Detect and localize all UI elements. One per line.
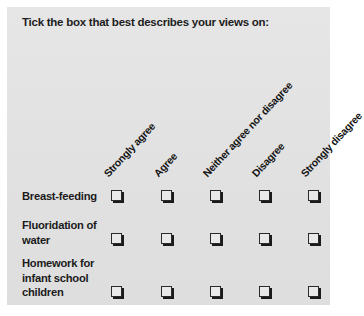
column-header-agree: Agree [151,150,179,179]
checkbox-homework-strongly-agree[interactable] [111,286,122,297]
checkbox-homework-strongly-disagree[interactable] [308,286,319,297]
question-panel: Tick the box that best describes your vi… [7,7,330,305]
column-header-anchor-4: Disagree [258,178,259,179]
checkbox-homework-agree[interactable] [161,286,172,297]
row-label-fluoridation-of-water: Fluoridation of water [22,218,114,247]
row-label-breast-feeding: Breast-feeding [22,189,114,204]
column-header-anchor-2: Agree [160,178,161,179]
column-header-neither-agree-nor-disagree: Neither agree nor disagree [200,79,294,179]
checkbox-breast-feeding-neither-agree-nor-disagree[interactable] [210,190,221,201]
checkbox-homework-neither-agree-nor-disagree[interactable] [210,286,221,297]
checkbox-breast-feeding-strongly-disagree[interactable] [308,190,319,201]
checkbox-fluoridation-of-water-strongly-agree[interactable] [111,233,122,244]
column-header-strongly-disagree: Strongly disagree [298,110,364,179]
column-header-anchor-5: Strongly disagree [307,178,308,179]
column-header-anchor-3: Neither agree nor disagree [209,178,210,179]
checkbox-breast-feeding-disagree[interactable] [259,190,270,201]
column-header-anchor-1: Strongly agree [110,178,111,179]
checkbox-breast-feeding-agree[interactable] [161,190,172,201]
column-header-disagree: Disagree [249,140,286,179]
checkbox-homework-disagree[interactable] [259,286,270,297]
column-header-strongly-agree: Strongly agree [101,120,157,179]
checkbox-fluoridation-of-water-disagree[interactable] [259,233,270,244]
checkbox-fluoridation-of-water-neither-agree-nor-disagree[interactable] [210,233,221,244]
checkbox-fluoridation-of-water-strongly-disagree[interactable] [308,233,319,244]
row-label-homework-for-infant-school-children: Homework for infant school children [22,256,114,300]
question-heading: Tick the box that best describes your vi… [22,16,322,28]
checkbox-breast-feeding-strongly-agree[interactable] [111,190,122,201]
checkbox-fluoridation-of-water-agree[interactable] [161,233,172,244]
